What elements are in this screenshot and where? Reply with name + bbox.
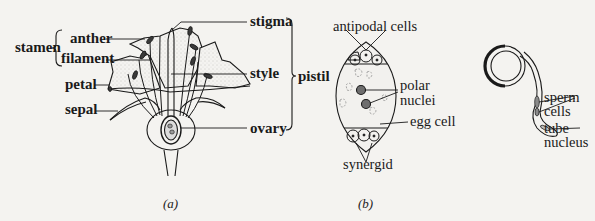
petals <box>108 28 250 94</box>
label-antipodal-cells: antipodal cells <box>333 19 417 34</box>
label-petal: petal <box>65 77 97 92</box>
sperm-cell-1 <box>535 96 540 108</box>
label-egg-cell: egg cell <box>410 114 456 129</box>
embryo-sac-diagram <box>336 30 408 162</box>
label-ovary: ovary <box>250 121 287 136</box>
sperm-cell-2 <box>535 108 539 116</box>
label-anther: anther <box>70 31 113 46</box>
embryo-sac-outline <box>336 42 396 152</box>
label-synergid: synergid <box>343 157 393 172</box>
label-stigma: stigma <box>250 14 293 29</box>
label-polar-nuclei-1: polar <box>400 78 430 93</box>
label-sepal: sepal <box>65 102 98 117</box>
caption-b: (b) <box>358 196 373 212</box>
stem <box>164 150 178 176</box>
label-pistil: pistil <box>298 69 330 84</box>
label-stamen: stamen <box>15 40 61 55</box>
label-polar-nuclei-2: nuclei <box>400 93 435 108</box>
pollen-grain-inner <box>491 51 521 81</box>
polar-nucleus-2 <box>362 100 371 109</box>
label-style: style <box>250 66 279 81</box>
label-sperm-cells-2: cells <box>544 104 571 119</box>
label-tube-nucleus-2: nucleus <box>544 135 588 150</box>
label-filament: filament <box>61 51 114 66</box>
pistil-brace <box>286 18 296 130</box>
caption-a: (a) <box>163 196 178 212</box>
polar-nucleus-1 <box>357 86 366 95</box>
